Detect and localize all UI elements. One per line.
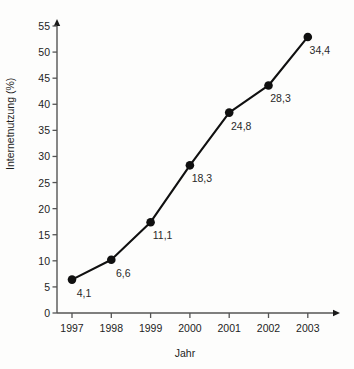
y-axis-tick-label: 30 bbox=[18, 150, 50, 162]
y-axis-tick-label: 40 bbox=[18, 98, 50, 110]
y-axis-title: Internetnutzung (%) bbox=[4, 78, 16, 170]
line-chart: 0510152025303540455055 19971998199920002… bbox=[0, 0, 354, 369]
data-point-label: 28,3 bbox=[270, 92, 290, 104]
y-axis-tick-label: 50 bbox=[18, 46, 50, 58]
data-point-marker bbox=[304, 33, 313, 42]
axis-group bbox=[53, 19, 341, 318]
data-point-marker bbox=[68, 275, 77, 284]
data-point-label: 18,3 bbox=[192, 172, 212, 184]
data-point-label: 6,6 bbox=[116, 267, 131, 279]
data-point-label: 11,1 bbox=[153, 229, 173, 241]
y-axis-tick-label: 55 bbox=[18, 20, 50, 32]
x-axis-tick-label: 1997 bbox=[60, 322, 83, 334]
data-point-label: 24,8 bbox=[231, 120, 251, 132]
y-axis-tick-label: 45 bbox=[18, 72, 50, 84]
data-point-marker bbox=[264, 81, 273, 90]
x-axis-tick-label: 1998 bbox=[100, 322, 123, 334]
x-axis-tick-label: 2001 bbox=[218, 322, 241, 334]
y-axis-tick-label: 0 bbox=[18, 307, 50, 319]
x-axis-tick-label: 2000 bbox=[178, 322, 201, 334]
data-point-label: 4,1 bbox=[77, 287, 92, 299]
data-point-label: 34,4 bbox=[310, 44, 330, 56]
y-axis-tick-label: 5 bbox=[18, 281, 50, 293]
data-point-marker bbox=[225, 108, 234, 117]
y-axis-tick-label: 10 bbox=[18, 255, 50, 267]
y-axis-arrowhead bbox=[54, 19, 60, 26]
data-point-marker bbox=[186, 161, 195, 170]
y-axis-tick-label: 35 bbox=[18, 124, 50, 136]
x-axis-tick-label: 2002 bbox=[257, 322, 280, 334]
x-axis-arrowhead bbox=[333, 310, 340, 316]
y-axis-tick-label: 25 bbox=[18, 177, 50, 189]
data-point-marker bbox=[146, 218, 155, 227]
y-axis-tick-label: 15 bbox=[18, 229, 50, 241]
data-series-internet-usage bbox=[68, 33, 312, 284]
x-axis-tick-label: 1999 bbox=[139, 322, 162, 334]
data-point-marker bbox=[107, 255, 116, 264]
x-axis-title: Jahr bbox=[175, 347, 195, 359]
series-line bbox=[72, 37, 308, 280]
y-axis-tick-label: 20 bbox=[18, 203, 50, 215]
chart-canvas bbox=[0, 0, 354, 369]
x-axis-tick-label: 2003 bbox=[296, 322, 319, 334]
